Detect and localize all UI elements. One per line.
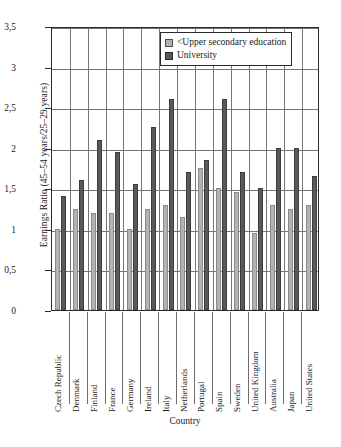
bar [180, 217, 185, 310]
bar-group [213, 28, 231, 310]
bar-group [141, 28, 159, 310]
x-label-divider [140, 312, 141, 404]
bar [61, 196, 66, 310]
bar [306, 205, 311, 310]
y-tick-label-2,5: 2,5 [0, 103, 16, 113]
y-axis-title: Earnings Ratio (45–54 years/25–29 years) [39, 35, 49, 295]
bar-group [52, 28, 70, 310]
y-tick-label-3,5: 3,5 [0, 22, 16, 32]
x-label-divider [194, 312, 195, 404]
bar [97, 140, 102, 310]
x-label-divider [105, 312, 106, 404]
bar [109, 213, 114, 310]
bar [276, 148, 281, 310]
bar [270, 205, 275, 310]
bar-group [249, 28, 267, 310]
bar [258, 188, 263, 310]
x-label-divider [230, 312, 231, 404]
bar-group [302, 28, 320, 310]
bar [216, 188, 221, 310]
bar-group [231, 28, 249, 310]
x-tick-label: Spain [214, 316, 224, 412]
bar [186, 172, 191, 310]
y-tick-label-1,5: 1,5 [0, 184, 16, 194]
bar [312, 176, 317, 310]
bar-group [123, 28, 141, 310]
bar [73, 209, 78, 310]
bar [151, 127, 156, 310]
bar [204, 160, 209, 310]
x-tick-label: Finland [89, 316, 99, 412]
x-tick-label: Japan [286, 316, 296, 412]
legend-swatch-icon-university [165, 52, 173, 60]
x-label-divider [176, 312, 177, 404]
x-tick-label: Netherlands [179, 316, 189, 412]
y-tick-label-3: 3 [0, 63, 16, 73]
bar [240, 172, 245, 310]
x-tick-label: United Kingdom [250, 316, 260, 412]
legend-swatch-icon-upper-secondary [165, 39, 173, 47]
x-axis-title: Country [51, 416, 319, 426]
bar [234, 192, 239, 310]
x-tick-label: Sweden [232, 316, 242, 412]
x-label-divider [87, 312, 88, 404]
y-tick-label-0,5: 0,5 [0, 265, 16, 275]
bar-group [88, 28, 106, 310]
x-label-divider [283, 312, 284, 404]
bar-group [159, 28, 177, 310]
bar [163, 205, 168, 310]
bar-group [177, 28, 195, 310]
x-tick-label: Portugal [196, 316, 206, 412]
y-tick-label-2: 2 [0, 144, 16, 154]
x-tick-label: Italy [161, 316, 171, 412]
bar [133, 184, 138, 310]
bar-groups [52, 28, 318, 310]
legend-item-university: University [165, 49, 286, 62]
bar [127, 229, 132, 310]
plot-area: <Upper secondary education University [51, 27, 319, 311]
x-tick-label: Denmark [71, 316, 81, 412]
bar-group [70, 28, 88, 310]
bar [294, 148, 299, 310]
earnings-ratio-bar-chart: Earnings Ratio (45–54 years/25–29 years)… [0, 0, 341, 447]
bar [79, 180, 84, 310]
x-label-divider [212, 312, 213, 404]
x-label-divider [122, 312, 123, 404]
bar-group [266, 28, 284, 310]
bar [169, 99, 174, 310]
bar [145, 209, 150, 310]
bar-group [106, 28, 124, 310]
x-label-divider [301, 312, 302, 404]
bar-group [284, 28, 302, 310]
bar [115, 152, 120, 310]
x-label-divider [69, 312, 70, 404]
legend-item-upper-secondary: <Upper secondary education [165, 36, 286, 49]
bar [91, 213, 96, 310]
legend-label-upper-secondary: <Upper secondary education [177, 36, 286, 49]
x-label-divider [265, 312, 266, 404]
x-tick-label: France [107, 316, 117, 412]
bar [252, 233, 257, 310]
x-tick-label: Germany [125, 316, 135, 412]
y-tick-label-1: 1 [0, 225, 16, 235]
x-tick-label: United States [304, 316, 314, 412]
bar [55, 229, 60, 310]
bar-group [195, 28, 213, 310]
x-label-divider [158, 312, 159, 404]
legend-label-university: University [177, 49, 217, 62]
bar [288, 209, 293, 310]
x-axis-tick-labels: Czech RepublicDenmarkFinlandFranceGerman… [51, 312, 319, 412]
x-label-divider [248, 312, 249, 404]
x-tick-label: Ireland [143, 316, 153, 412]
legend: <Upper secondary education University [160, 32, 292, 66]
bar [198, 168, 203, 310]
x-tick-label: Australia [268, 316, 278, 412]
bar [222, 99, 227, 310]
y-tick-label-0: 0 [0, 306, 16, 316]
x-tick-label: Czech Republic [53, 316, 63, 412]
